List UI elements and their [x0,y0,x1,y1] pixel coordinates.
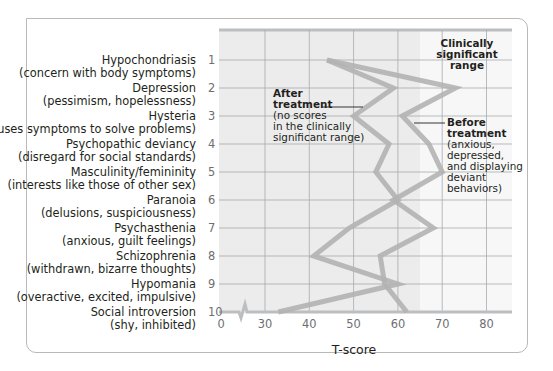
category-name: Psychopathic deviancy [66,137,196,151]
clinical-range-label: range [450,59,484,71]
row-number: 5 [208,165,215,179]
category-description: (interests like those of other sex) [7,178,196,192]
row-number: 3 [208,109,215,123]
category-name: Masculinity/femininity [71,165,196,179]
category-name: Depression [132,81,196,95]
category-description: (anxious, guilt feelings) [62,234,196,248]
category-name: Hysteria [148,109,196,123]
category-name: Hypomania [131,277,196,291]
x-tick-label: 40 [302,317,317,331]
x-tick-label: 0 [217,317,224,331]
category-description: (shy, inhibited) [110,318,196,332]
category-description: (concern with body symptoms) [19,66,196,80]
category-description: (pessimism, hopelessness) [43,94,196,108]
row-number: 6 [208,193,215,207]
category-description: (disregard for social standards) [18,150,196,164]
category-description: (uses symptoms to solve problems) [0,122,196,136]
category-name: Schizophrenia [116,249,196,263]
row-number: 8 [208,249,215,263]
category-name: Paranoia [147,193,196,207]
category-name: Hypochondriasis [102,53,196,67]
before-treatment-note: behaviors) [447,182,502,194]
category-description: (delusions, suspiciousness) [41,206,196,220]
after-treatment-note: significant range) [273,131,364,143]
x-tick-label: 80 [479,317,494,331]
x-axis-title: T-score [331,342,377,357]
x-tick-label: 60 [391,317,406,331]
category-name: Social introversion [91,305,196,319]
row-number: 2 [208,81,215,95]
x-tick-label: 50 [346,317,361,331]
row-number: 1 [208,53,215,67]
category-description: (withdrawn, bizarre thoughts) [27,262,196,276]
row-number: 9 [208,277,215,291]
mmpi-profile-chart: Hypochondriasis(concern with body sympto… [0,0,553,371]
x-tick-label: 30 [258,317,273,331]
category-description: (overactive, excited, impulsive) [16,290,196,304]
row-number: 4 [208,137,215,151]
x-tick-label: 70 [435,317,450,331]
category-name: Psychasthenia [114,221,196,235]
row-number: 7 [208,221,215,235]
